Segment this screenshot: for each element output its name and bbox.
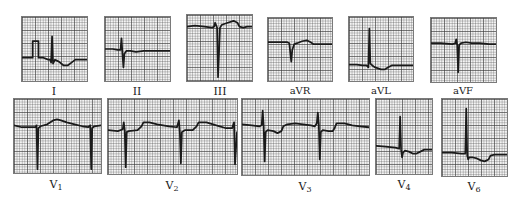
ecg-trace-lead-III: [187, 15, 252, 81]
lead-label-V3: V3: [298, 180, 311, 194]
lead-label-V6-main: V: [467, 180, 475, 193]
ecg-panel-lead-V6: [441, 98, 508, 177]
ecg-panel-lead-aVF: [430, 17, 497, 83]
lead-label-I: I: [52, 85, 56, 98]
lead-label-V3-sub: 3: [306, 185, 311, 194]
ecg-trace-lead-aVR: [268, 18, 332, 81]
lead-label-V4-main: V: [397, 178, 405, 191]
lead-label-V1: V1: [49, 178, 62, 192]
lead-label-V2-main: V: [165, 179, 173, 192]
ecg-trace-lead-aVF: [431, 18, 496, 82]
lead-label-V2-sub: 2: [173, 184, 178, 193]
ecg-trace-lead-V6: [442, 99, 507, 176]
ecg-panel-lead-V4: [375, 98, 433, 175]
ecg-trace-lead-V3: [242, 99, 369, 175]
lead-label-II: II: [133, 85, 142, 98]
ecg-trace-lead-V4: [376, 99, 432, 174]
lead-label-V4: V4: [397, 178, 410, 192]
ecg-panel-lead-V1: [13, 98, 102, 174]
ecg-trace-lead-V1: [14, 99, 101, 173]
ecg-trace-lead-II: [105, 17, 170, 81]
lead-label-V6: V6: [467, 180, 480, 194]
lead-label-V6-sub: 6: [475, 185, 480, 194]
ecg-trace-lead-aVL: [349, 17, 413, 81]
ecg-panel-lead-aVL: [348, 16, 414, 82]
lead-label-V4-sub: 4: [405, 183, 410, 192]
lead-label-aVF: aVF: [453, 85, 473, 96]
ecg-trace-lead-I: [22, 17, 87, 81]
lead-label-V1-sub: 1: [57, 183, 62, 192]
ecg-panel-lead-II: [104, 16, 171, 82]
lead-label-aVR: aVR: [290, 85, 311, 96]
lead-label-aVL: aVL: [371, 85, 391, 96]
ecg-panel-lead-I: [21, 16, 88, 82]
lead-label-V3-main: V: [298, 180, 306, 193]
ecg-panel-lead-V2: [107, 98, 238, 175]
lead-label-III: III: [213, 85, 226, 98]
ecg-panel-lead-V3: [241, 98, 370, 176]
lead-label-V2: V2: [165, 179, 178, 193]
ecg-panel-lead-aVR: [267, 17, 333, 82]
ecg-panel-lead-III: [186, 14, 253, 82]
ecg-trace-lead-V2: [108, 99, 237, 174]
lead-label-V1-main: V: [49, 178, 57, 191]
